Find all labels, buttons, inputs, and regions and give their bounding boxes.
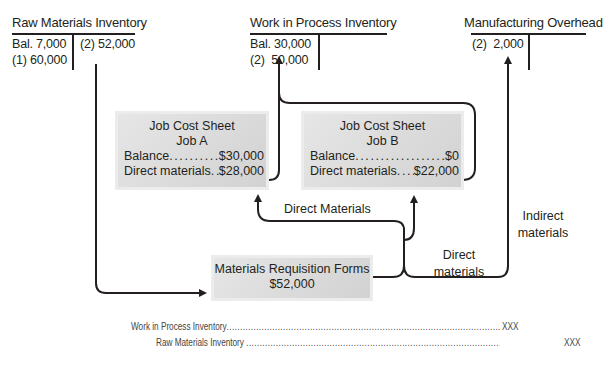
job-cost-sheet-a: Job Cost Sheet Job A Balance ...........… [118,114,266,187]
account-title: Raw Materials Inventory [12,15,147,30]
label-indirect-materials: Indirect materials [508,208,578,242]
requisition-title: Materials Requisition Forms [214,262,370,277]
row-label: Direct materials [310,164,397,179]
materials-requisition-box: Materials Requisition Forms $52,000 [214,258,370,298]
dot-leader: ........................................… [227,321,500,332]
credit-amount: XXX [564,337,589,348]
account-title: Work in Process Inventory [250,15,396,30]
t-account-divider [72,33,74,70]
row-value: $22,000 [414,164,459,179]
job-sheet-job: Job B [310,134,461,149]
dot-leader: ........................................… [169,149,219,164]
label-line: materials [508,225,578,242]
arrow-job-a-to-wip [269,58,279,180]
debit-entry: Bal. 30,000 [250,37,311,51]
requisition-amount: $52,000 [214,277,370,292]
account-title: Manufacturing Overhead [464,15,603,30]
dot-leader: ........................................… [355,149,445,164]
dot-leader: ........................................… [211,164,219,179]
credit-account: Raw Materials Inventory [156,337,244,348]
label-direct-materials: Direct Materials [284,201,371,218]
credit-entry: (2) 52,000 [80,37,135,51]
arrow-to-job-b [404,197,414,240]
job-sheet-title: Job Cost Sheet [124,119,266,134]
row-label: Direct materials [124,164,211,179]
debit-entry: (2) 50,000 [250,53,308,67]
debit-amount: XXX [502,321,527,332]
job-sheet-title: Job Cost Sheet [310,119,461,134]
debit-entry: Bal. 7,000 [12,37,66,51]
dot-leader: ........................................… [397,164,414,179]
journal-credit-line: Raw Materials Inventory ................… [156,337,500,348]
row-value: $30,000 [219,149,264,164]
job-sheet-row: Balance ................................… [310,149,461,164]
debit-account: Work in Process Inventory [131,321,227,332]
t-account-divider [318,33,320,70]
t-account-top-line [12,33,135,35]
debit-entry: (1) 60,000 [12,53,67,67]
row-label: Balance [124,149,169,164]
job-sheet-row: Direct materials .......................… [124,164,266,179]
row-value: $28,000 [219,164,264,179]
t-account-divider [528,33,530,70]
dot-leader: ........................................… [246,337,499,348]
arrow-requisition-out [371,230,404,277]
job-sheet-job: Job A [124,134,266,149]
label-line: materials [424,264,494,281]
job-sheet-row: Balance ................................… [124,149,266,164]
label-line: Indirect [508,208,578,225]
label-direct-materials-right: Direct materials [424,247,494,281]
job-cost-sheet-b: Job Cost Sheet Job B Balance ...........… [304,114,461,187]
row-value: $0 [445,149,459,164]
label-line: Direct [424,247,494,264]
row-label: Balance [310,149,355,164]
job-sheet-row: Direct materials .......................… [310,164,461,179]
debit-entry: (2) 2,000 [472,37,524,51]
journal-debit-line: Work in Process Inventory...............… [131,321,500,332]
